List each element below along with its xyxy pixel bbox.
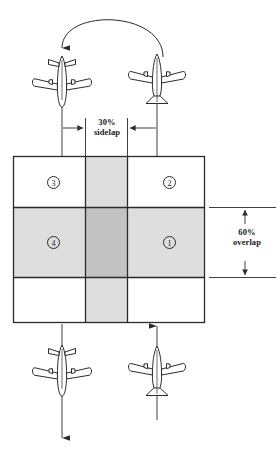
photo-number-3: 3 bbox=[47, 176, 60, 189]
aircraft-nacelle-left bbox=[144, 72, 148, 77]
diagram-canvas bbox=[0, 0, 278, 449]
overlap-label: 60% overlap bbox=[222, 227, 272, 247]
aircraft-nacelle-left bbox=[144, 364, 148, 369]
sidelap-label: 30% sidelap bbox=[83, 117, 131, 137]
photo-number-2: 2 bbox=[163, 176, 176, 189]
aircraft-nacelle-right bbox=[72, 369, 76, 374]
bottom-flight-lines bbox=[62, 324, 157, 438]
overlap-intersection bbox=[86, 208, 128, 278]
aircraft-wing-left bbox=[128, 71, 152, 83]
aircraft-nacelle-left bbox=[49, 369, 53, 374]
aircraft-nacelle-right bbox=[167, 364, 171, 369]
photo-number-1: 1 bbox=[163, 236, 176, 249]
aircraft-tailplane-left bbox=[49, 349, 60, 356]
aircraft-top-left bbox=[32, 56, 91, 108]
aircraft-bottom-left bbox=[32, 345, 91, 397]
aircraft-tailplane-right bbox=[65, 60, 76, 67]
photo-number-4: 4 bbox=[47, 236, 60, 249]
aircraft-tailplane-right bbox=[65, 349, 76, 356]
aircraft-wing-left bbox=[128, 363, 152, 375]
photogrammetry-overlap-diagram: 3 2 4 1 30% sidelap 60% overlap bbox=[0, 0, 278, 449]
aircraft-nacelle-left bbox=[49, 80, 53, 85]
aircraft-wing-right bbox=[162, 363, 186, 375]
aircraft-tailplane-left bbox=[49, 60, 60, 67]
turn-arc-line bbox=[62, 20, 163, 57]
turn-path-arc bbox=[62, 20, 163, 57]
aircraft-bottom-right bbox=[128, 346, 185, 396]
aircraft-wing-left bbox=[32, 79, 57, 90]
aircraft-nacelle-right bbox=[167, 72, 171, 77]
aircraft-wing-right bbox=[67, 79, 92, 90]
aircraft-nacelle-right bbox=[72, 80, 76, 85]
aircraft-wing-right bbox=[67, 368, 92, 379]
aircraft-wing-left bbox=[32, 368, 57, 379]
aircraft-top-right bbox=[128, 54, 185, 104]
aircraft-wing-right bbox=[162, 71, 186, 83]
